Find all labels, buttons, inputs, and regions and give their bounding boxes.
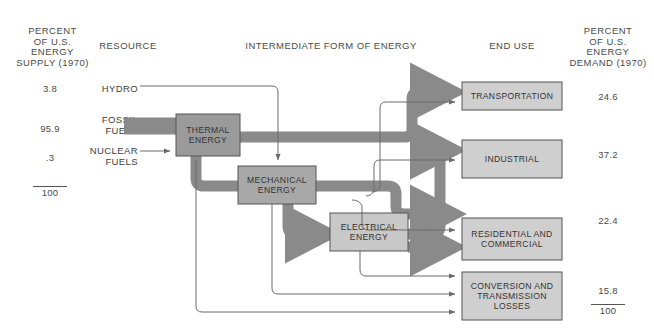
- line-electrical-to-losses: [360, 251, 455, 276]
- box-label-residential: RESIDENTIAL AND COMMERCIAL: [462, 218, 562, 260]
- box-label-mechanical: MECHANICAL ENERGY: [238, 166, 316, 204]
- box-label-industrial-wrap: INDUSTRIAL: [462, 140, 562, 178]
- box-label-mechanical-wrap: MECHANICAL ENERGY: [238, 166, 316, 204]
- box-label-thermal: THERMAL ENERGY: [176, 114, 240, 156]
- band-thermal-to-mechanical: [196, 156, 238, 186]
- box-label-transportation: TRANSPORTATION: [462, 82, 562, 110]
- band-thermal-to-transportation: [404, 92, 455, 137]
- box-label-losses-wrap: CONVERSION AND TRANSMISSION LOSSES: [462, 272, 562, 320]
- box-label-electrical: ELECTRICAL ENERGY: [330, 213, 408, 251]
- box-label-residential-wrap: RESIDENTIAL AND COMMERCIAL: [462, 218, 562, 260]
- band-mechanical-to-electrical: [288, 201, 330, 234]
- band-electrical-to-industrial: [408, 150, 455, 234]
- box-label-transportation-wrap: TRANSPORTATION: [462, 82, 562, 110]
- box-label-electrical-wrap: ELECTRICAL ENERGY: [330, 213, 408, 251]
- box-label-industrial: INDUSTRIAL: [462, 140, 562, 178]
- box-label-thermal-wrap: THERMAL ENERGY: [176, 114, 240, 156]
- band-mechanical-to-industrial: [316, 186, 455, 214]
- box-label-losses: CONVERSION AND TRANSMISSION LOSSES: [462, 272, 562, 320]
